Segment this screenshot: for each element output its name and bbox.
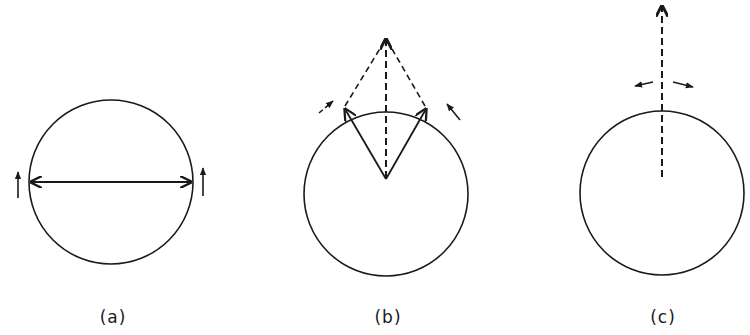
- right-vector-arrow: [386, 109, 426, 179]
- panel-label-a: (a): [100, 307, 127, 327]
- circle-c: [580, 111, 744, 275]
- panel-label-b: (b): [374, 307, 401, 327]
- left-dashed-line: [345, 42, 384, 106]
- panel-a: [18, 100, 203, 264]
- right-outward-arrow-icon: [673, 82, 693, 87]
- right-dashed-line: [388, 42, 425, 106]
- panel-c: [580, 6, 744, 275]
- left-vector-arrow: [345, 109, 386, 179]
- left-tangent-arrow-icon: [319, 101, 333, 113]
- circle-b: [304, 112, 468, 276]
- right-tangent-arrow-icon: [447, 104, 460, 120]
- panel-b: [304, 39, 468, 276]
- left-outward-arrow-icon: [635, 82, 653, 86]
- panel-label-c: (c): [650, 307, 676, 327]
- figure-canvas: [0, 0, 750, 335]
